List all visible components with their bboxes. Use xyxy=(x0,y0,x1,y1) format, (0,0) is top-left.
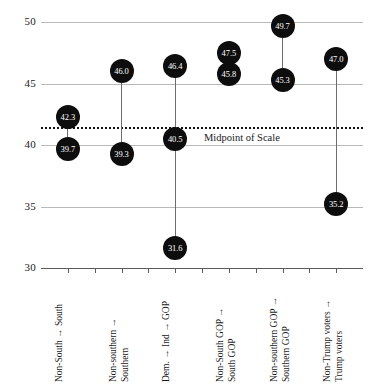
category-label-line: South GOP xyxy=(226,338,238,382)
y-axis-tick-label-40: 40 xyxy=(10,139,36,150)
x-axis-tick xyxy=(283,268,284,273)
y-axis-tick-label-50: 50 xyxy=(10,16,36,27)
data-point-marker[interactable]: 47.0 xyxy=(324,47,348,71)
category-label-line: Southern GOP xyxy=(280,326,292,382)
connector-line xyxy=(175,66,176,248)
x-axis-tick xyxy=(229,268,230,273)
x-axis-tick xyxy=(95,268,96,273)
data-point-marker[interactable]: 45.8 xyxy=(217,62,241,86)
gridline-50 xyxy=(41,22,363,23)
x-axis-tick xyxy=(122,268,123,273)
data-point-marker[interactable]: 35.2 xyxy=(324,192,348,216)
plot-area: 42.339.746.039.346.440.531.647.545.849.7… xyxy=(41,22,363,268)
data-point-marker[interactable]: 46.0 xyxy=(110,59,134,83)
category-label-line: Non-Trump voters → xyxy=(322,299,334,382)
data-point-marker[interactable]: 45.3 xyxy=(271,68,295,92)
x-axis-tick xyxy=(68,268,69,273)
gridline-40 xyxy=(41,145,363,146)
category-label-line: Non-southern GOP → xyxy=(269,297,281,382)
x-axis-category-label: Non-Trump voters →Trump voters xyxy=(322,274,350,382)
x-axis-category-label: Non-South → South xyxy=(54,274,82,382)
chart-root: 42.339.746.039.346.440.531.647.545.849.7… xyxy=(0,0,376,385)
category-label-line: Non-South → South xyxy=(54,304,66,382)
x-axis-tick xyxy=(336,268,337,273)
category-label-line: Trump voters xyxy=(334,331,346,382)
data-point-marker[interactable]: 39.3 xyxy=(110,142,134,166)
category-label-line: Non-southern → xyxy=(108,318,120,382)
gridline-35 xyxy=(41,207,363,208)
data-point-marker[interactable]: 42.3 xyxy=(56,105,80,129)
gridline-45 xyxy=(41,84,363,85)
connector-line xyxy=(336,59,337,204)
x-axis-tick xyxy=(175,268,176,273)
x-axis-tick xyxy=(256,268,257,273)
x-axis-category-label: Non-southern →Southern xyxy=(108,274,136,382)
y-axis-tick-label-45: 45 xyxy=(10,78,36,89)
category-label-line: Non-South GOP → xyxy=(215,307,227,382)
y-axis-tick-label-30: 30 xyxy=(10,262,36,273)
y-axis-tick-label-35: 35 xyxy=(10,201,36,212)
x-axis-category-label: Dem. → Ind → GOP xyxy=(161,274,189,382)
data-point-marker[interactable]: 46.4 xyxy=(163,54,187,78)
x-axis-tick xyxy=(309,268,310,273)
x-axis-tick xyxy=(148,268,149,273)
data-point-marker[interactable]: 40.5 xyxy=(163,127,187,151)
x-axis-category-label: Non-southern GOP →Southern GOP xyxy=(269,274,297,382)
midpoint-of-scale-line xyxy=(41,127,363,129)
category-label-line: Dem. → Ind → GOP xyxy=(161,301,173,382)
data-point-marker[interactable]: 49.7 xyxy=(271,14,295,38)
data-point-marker[interactable]: 39.7 xyxy=(56,137,80,161)
x-axis-category-label: Non-South GOP →South GOP xyxy=(215,274,243,382)
category-label-line: Southern xyxy=(119,348,131,382)
data-point-marker[interactable]: 31.6 xyxy=(163,236,187,260)
x-axis-tick xyxy=(202,268,203,273)
midpoint-of-scale-label: Midpoint of Scale xyxy=(204,132,280,144)
